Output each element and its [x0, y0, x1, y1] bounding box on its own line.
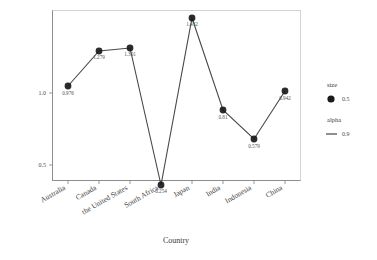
data-point-label-2: 1.301 — [124, 51, 136, 57]
line-chart-plot: 1.0 0.5 0.976 1.279 1.301 0.254 1.432 0.… — [0, 0, 377, 260]
legend-label-size-0.5: 0.5 — [342, 96, 350, 102]
data-point-label-4: 1.432 — [186, 21, 198, 27]
x-axis-title: Country — [163, 236, 189, 245]
series-line-value — [68, 18, 285, 185]
legend-label-alpha-0.9: 0.9 — [342, 131, 350, 137]
x-tick-label-australia: Australia — [39, 183, 68, 205]
x-tick-label-japan: Japan — [172, 183, 192, 199]
x-tick-label-india: India — [204, 183, 222, 199]
legend-key-size-point-icon — [327, 95, 334, 102]
legend-title-alpha: alpha — [327, 116, 341, 123]
data-point-6[interactable] — [251, 136, 258, 143]
chart-figure: 1.0 0.5 0.976 1.279 1.301 0.254 1.432 0.… — [0, 0, 377, 260]
data-point-5[interactable] — [220, 107, 227, 114]
data-point-label-1: 1.279 — [93, 54, 105, 60]
plot-panel-border — [53, 11, 301, 181]
legend-title-size: size — [327, 81, 337, 88]
data-point-0[interactable] — [65, 83, 72, 90]
data-point-label-6: 0.579 — [248, 143, 260, 149]
y-tick-label-0.5: 0.5 — [39, 162, 47, 168]
data-point-label-5: 0.81 — [218, 114, 227, 120]
data-point-label-7: 0.942 — [279, 95, 291, 101]
x-tick-label-china: China — [264, 183, 285, 200]
data-point-label-0: 0.976 — [62, 90, 74, 96]
data-point-7[interactable] — [282, 88, 289, 95]
x-tick-label-indonesia: Indonesia — [223, 183, 253, 206]
y-tick-label-1.0: 1.0 — [39, 90, 47, 96]
x-tick-label-south-africa: South Africa — [122, 183, 160, 210]
